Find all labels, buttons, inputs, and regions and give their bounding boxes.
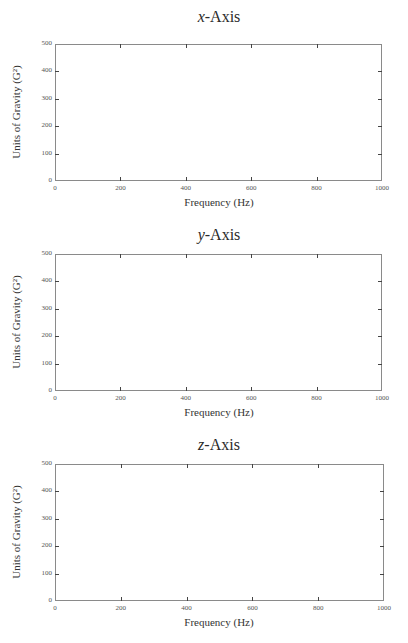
y-tick-mark	[55, 574, 59, 575]
y-tick-mark	[55, 99, 59, 100]
x-tick-label: 200	[105, 394, 135, 402]
y-tick-mark	[380, 546, 384, 547]
y-tick-mark	[55, 519, 59, 520]
y-tick-label: 100	[32, 149, 52, 157]
x-tick-label: 200	[105, 184, 135, 192]
y-axis-label: Units of Gravity (G²)	[10, 462, 22, 602]
x-tick-mark	[317, 44, 318, 48]
y-tick-label: 200	[32, 541, 52, 549]
y-tick-mark	[55, 126, 59, 127]
y-tick-label: 0	[32, 176, 52, 184]
x-axis-label: Frequency (Hz)	[55, 406, 383, 418]
x-tick-mark	[187, 464, 188, 468]
y-tick-mark	[378, 364, 382, 365]
x-tick-mark	[186, 44, 187, 48]
x-tick-label: 0	[40, 184, 70, 192]
y-tick-label: 0	[32, 596, 52, 604]
y-tick-label: 500	[32, 249, 52, 257]
x-tick-label: 200	[106, 604, 136, 612]
x-tick-mark	[317, 177, 318, 181]
y-tick-label: 100	[32, 359, 52, 367]
y-tick-label: 300	[32, 514, 52, 522]
x-tick-mark	[252, 464, 253, 468]
y-tick-mark	[380, 491, 384, 492]
y-tick-mark	[378, 281, 382, 282]
plot-area	[55, 254, 382, 391]
x-tick-mark	[317, 254, 318, 258]
y-tick-label: 400	[32, 66, 52, 74]
y-tick-label: 100	[32, 569, 52, 577]
plot-area	[55, 44, 382, 181]
x-tick-mark	[120, 44, 121, 48]
x-tick-label: 600	[236, 394, 266, 402]
y-tick-mark	[55, 491, 59, 492]
x-tick-mark	[318, 597, 319, 601]
y-tick-mark	[55, 364, 59, 365]
x-tick-mark	[186, 177, 187, 181]
x-tick-mark	[251, 177, 252, 181]
x-tick-mark	[318, 464, 319, 468]
x-axis-label: Frequency (Hz)	[55, 196, 383, 208]
y-tick-mark	[378, 336, 382, 337]
chart-title: x-Axis	[55, 8, 383, 26]
x-tick-label: 0	[40, 604, 70, 612]
y-tick-mark	[55, 154, 59, 155]
y-tick-mark	[55, 546, 59, 547]
y-axis-label: Units of Gravity (G²)	[10, 252, 22, 392]
x-tick-mark	[251, 387, 252, 391]
y-tick-mark	[380, 574, 384, 575]
x-tick-mark	[120, 254, 121, 258]
x-tick-label: 1000	[369, 604, 399, 612]
x-tick-mark	[317, 387, 318, 391]
y-tick-mark	[55, 281, 59, 282]
y-tick-label: 400	[32, 276, 52, 284]
y-tick-label: 500	[32, 459, 52, 467]
x-tick-mark	[121, 464, 122, 468]
x-axis-label: Frequency (Hz)	[55, 616, 383, 628]
y-tick-label: 200	[32, 331, 52, 339]
y-tick-mark	[378, 154, 382, 155]
y-tick-mark	[55, 71, 59, 72]
y-tick-mark	[378, 71, 382, 72]
x-tick-label: 800	[302, 184, 332, 192]
x-tick-label: 400	[171, 394, 201, 402]
chart-title: y-Axis	[55, 226, 383, 244]
x-tick-mark	[251, 44, 252, 48]
x-tick-label: 1000	[367, 184, 397, 192]
x-tick-mark	[251, 254, 252, 258]
x-tick-mark	[186, 387, 187, 391]
y-tick-mark	[378, 309, 382, 310]
y-tick-label: 300	[32, 304, 52, 312]
y-tick-mark	[55, 309, 59, 310]
x-tick-label: 600	[237, 604, 267, 612]
x-tick-label: 400	[172, 604, 202, 612]
x-tick-label: 800	[303, 604, 333, 612]
y-tick-label: 300	[32, 94, 52, 102]
x-tick-label: 400	[171, 184, 201, 192]
x-tick-label: 800	[302, 394, 332, 402]
x-tick-mark	[120, 387, 121, 391]
y-axis-label: Units of Gravity (G²)	[10, 42, 22, 182]
x-tick-label: 0	[40, 394, 70, 402]
x-tick-label: 1000	[367, 394, 397, 402]
x-tick-mark	[187, 597, 188, 601]
x-tick-label: 600	[236, 184, 266, 192]
y-tick-mark	[55, 336, 59, 337]
y-tick-label: 0	[32, 386, 52, 394]
y-tick-label: 400	[32, 486, 52, 494]
x-tick-mark	[252, 597, 253, 601]
plot-area	[55, 464, 384, 601]
y-tick-mark	[380, 519, 384, 520]
y-tick-label: 200	[32, 121, 52, 129]
y-tick-label: 500	[32, 39, 52, 47]
y-tick-mark	[378, 99, 382, 100]
x-tick-mark	[120, 177, 121, 181]
x-tick-mark	[186, 254, 187, 258]
chart-title: z-Axis	[55, 436, 383, 454]
y-tick-mark	[378, 126, 382, 127]
x-tick-mark	[121, 597, 122, 601]
